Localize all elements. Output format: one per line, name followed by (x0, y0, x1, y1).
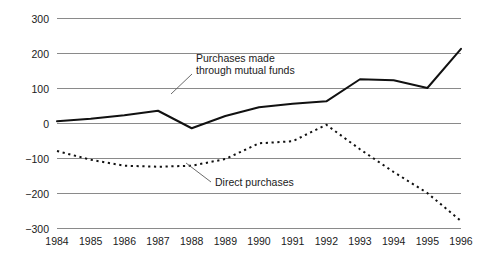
x-axis-tick-labels: 1984198519861987198819891990199119921993… (45, 235, 473, 247)
y-tick-label: 0 (43, 118, 49, 130)
x-tick-label: 1988 (180, 235, 204, 247)
annotation-line-2: through mutual funds (196, 64, 295, 76)
x-tick-label: 1990 (247, 235, 271, 247)
mutual-funds-label: Purchases madethrough mutual funds (196, 52, 295, 76)
y-tick-label: 200 (31, 48, 49, 60)
y-tick-label: −300 (25, 223, 49, 235)
x-tick-label: 1987 (146, 235, 170, 247)
y-tick-label: 300 (31, 13, 49, 25)
annotation-leader-line (186, 163, 211, 182)
annotation-line-1: Direct purchases (215, 176, 294, 188)
annotation-line-1: Purchases made (196, 52, 275, 64)
x-tick-label: 1989 (214, 235, 238, 247)
x-tick-label: 1993 (348, 235, 372, 247)
series-line-direct-purchases (57, 125, 461, 221)
annotations-group: Purchases madethrough mutual fundsDirect… (171, 52, 295, 188)
x-tick-label: 1991 (281, 235, 305, 247)
x-tick-label: 1996 (449, 235, 473, 247)
y-tick-label: −100 (25, 153, 49, 165)
y-tick-label: 100 (31, 83, 49, 95)
y-tick-label: −200 (25, 188, 49, 200)
x-tick-label: 1992 (315, 235, 339, 247)
gridlines-group (57, 19, 461, 229)
x-tick-label: 1995 (416, 235, 440, 247)
x-tick-label: 1984 (45, 235, 69, 247)
line-chart: 3002001000−100−200−300 19841985198619871… (0, 0, 484, 253)
x-tick-label: 1986 (113, 235, 137, 247)
x-tick-label: 1994 (382, 235, 406, 247)
direct-purchases-label: Direct purchases (215, 176, 294, 188)
x-tick-label: 1985 (79, 235, 103, 247)
chart-container: 3002001000−100−200−300 19841985198619871… (0, 0, 484, 253)
annotation-leader-line (171, 74, 192, 94)
y-axis-tick-labels: 3002001000−100−200−300 (25, 13, 49, 235)
